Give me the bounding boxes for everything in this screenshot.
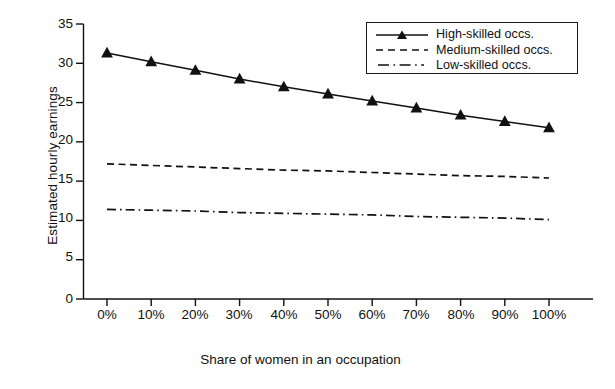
- legend-item-low-skilled: Low-skilled occs.: [374, 58, 571, 73]
- chart-container: Estimated hourly earnings Share of women…: [0, 0, 615, 389]
- legend: High-skilled occs. Medium-skilled occs. …: [366, 22, 578, 74]
- dashed-line-icon: [374, 43, 430, 57]
- legend-item-medium-skilled: Medium-skilled occs.: [374, 42, 571, 57]
- solid-line-with-triangle-marker-icon: [374, 28, 430, 42]
- dash-dot-line-icon: [374, 58, 430, 72]
- legend-label: High-skilled occs.: [436, 28, 534, 41]
- legend-label: Low-skilled occs.: [436, 59, 531, 72]
- legend-item-high-skilled: High-skilled occs.: [374, 27, 571, 42]
- x-axis-ticks: [107, 299, 549, 306]
- y-axis-ticks: [76, 24, 84, 299]
- legend-label: Medium-skilled occs.: [436, 44, 553, 57]
